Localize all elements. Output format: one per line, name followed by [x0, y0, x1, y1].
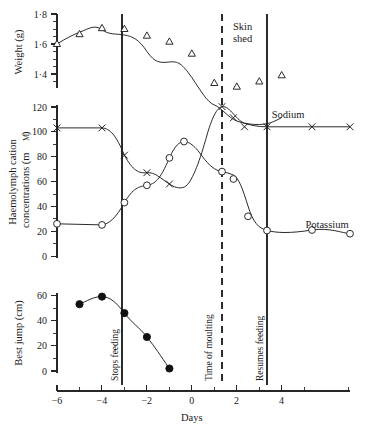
- haemolymph-axis-title-line2: concentrations (m: [20, 152, 32, 228]
- series-label-potassium: Potassium: [305, 219, 348, 230]
- jump-y-minor-ticks: [53, 308, 57, 358]
- weight-ytick-label-0: 1·8: [34, 9, 47, 20]
- haemolymph-axis-title-line2-group: concentrations (m M ): [20, 131, 32, 228]
- panel-jump: 60 40 20 0 Best jump (cm): [13, 290, 173, 377]
- xtick-label-3: 0: [189, 395, 194, 406]
- xtick-label-2: −2: [141, 395, 152, 406]
- jump-curve: [80, 297, 170, 369]
- haemolymph-ytick-label-1: 100: [32, 126, 47, 137]
- xtick-label-5: 4: [279, 395, 284, 406]
- x-axis-group: −6 −4 −2 0 2 4 Days: [52, 385, 350, 423]
- xtick-label-0: −6: [52, 395, 63, 406]
- annotation-skin-shed-line2: shed: [233, 33, 253, 44]
- sodium-curve: [57, 107, 350, 188]
- jump-ytick-label-1: 40: [37, 315, 47, 326]
- event-label-stops-feeding: Stops feeding: [110, 329, 120, 381]
- jump-ytick-label-3: 0: [42, 366, 47, 377]
- haemolymph-axis-unit-close: ): [20, 131, 32, 135]
- x-minor-ticks: [80, 387, 349, 391]
- event-labels-group: Stops feeding Time of moulting Resumes f…: [110, 314, 265, 381]
- jump-ytick-label-0: 60: [37, 290, 47, 301]
- weight-ytick-label-2: 1·4: [34, 69, 47, 80]
- haemolymph-axis-title-line1: Haemolymph cation: [7, 139, 18, 225]
- x-axis-title: Days: [181, 412, 203, 423]
- jump-markers: [76, 293, 173, 372]
- haemolymph-ytick-label-4: 40: [37, 201, 47, 212]
- sodium-markers: [54, 103, 354, 187]
- event-lines-group: [122, 14, 267, 385]
- weight-axis-title: Weight (g): [13, 29, 25, 74]
- jump-ytick-label-2: 20: [37, 340, 47, 351]
- annotation-skin-shed-line1: Skin: [233, 21, 253, 32]
- triple-panel-chart: 1·8 1·6 1·4 Weight (g) S: [0, 0, 372, 432]
- xtick-label-1: −4: [97, 395, 108, 406]
- figure-container: 1·8 1·6 1·4 Weight (g) S: [0, 0, 372, 432]
- weight-ytick-label-1: 1·6: [34, 39, 47, 50]
- xtick-label-4: 2: [234, 395, 239, 406]
- event-label-resumes-feeding: Resumes feeding: [255, 316, 265, 381]
- haemolymph-ytick-label-5: 20: [37, 226, 47, 237]
- event-label-time-of-moulting: Time of moulting: [204, 314, 214, 381]
- haemolymph-ytick-label-2: 80: [37, 151, 47, 162]
- panel-haemolymph: 120 100 80 60 40 20 0 Haemolymph cation …: [7, 102, 353, 262]
- haemolymph-ytick-label-3: 60: [37, 176, 47, 187]
- haemolymph-ytick-label-6: 0: [42, 251, 47, 262]
- series-label-sodium: Sodium: [272, 109, 305, 120]
- haemolymph-ytick-label-0: 120: [32, 102, 47, 113]
- weight-y-minor-ticks: [53, 22, 57, 82]
- jump-axis-title: Best jump (cm): [13, 300, 25, 366]
